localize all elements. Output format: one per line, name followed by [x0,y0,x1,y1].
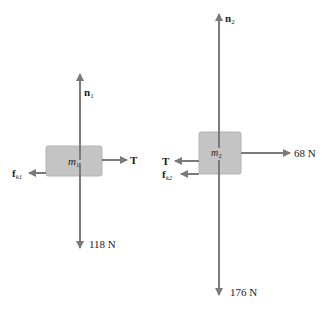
force-subscript: 2 [231,18,235,26]
mass-symbol: m [68,155,76,167]
force-subscript: k1 [16,173,23,181]
weight-2-label: 176 N [230,287,257,298]
friction-1-label: fk1 [12,168,22,181]
force-subscript: 1 [90,92,94,100]
tension-1-label: T [130,155,137,166]
block-1-mass-label: m1 [68,155,79,169]
block-2-diagram [175,14,290,295]
mass-subscript: 2 [218,152,222,160]
force-subscript: k2 [166,174,173,182]
mass-subscript: 1 [76,161,80,169]
tension-2-label: T [162,156,169,167]
normal-force-1-label: n1 [84,87,94,100]
friction-2-label: fk2 [162,169,172,182]
block-2-mass-label: m2 [211,147,222,160]
weight-1-label: 118 N [89,239,116,250]
normal-force-2-label: n2 [225,13,235,26]
applied-force-label: 68 N [294,148,316,159]
